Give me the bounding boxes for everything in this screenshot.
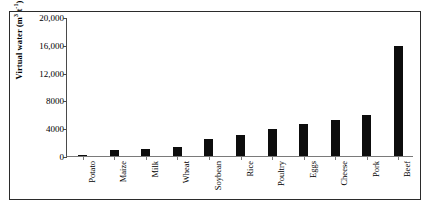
x-axis-label-pork: Pork	[370, 159, 382, 205]
x-axis-label-cheese: Cheese	[338, 159, 350, 205]
bar-pork	[362, 115, 371, 156]
y-axis-tick-label: 12,000	[22, 69, 64, 78]
bar-beef	[394, 46, 403, 156]
y-axis-tick-mark	[63, 157, 67, 158]
y-axis-tick-labels: 04000800012,00016,00020,000	[22, 14, 64, 162]
x-axis-category-labels: PotatoMaizeMilkWheatSoybeanRicePoultryEg…	[66, 159, 413, 207]
bar-cheese	[331, 120, 340, 156]
y-axis-tick-label: 0	[22, 153, 64, 162]
virtual-water-bar-chart-figure: Virtual water (m3 t-1) 04000800012,00016…	[0, 0, 432, 210]
y-axis-tick-mark	[63, 74, 67, 75]
y-axis-tick-label: 8000	[22, 97, 64, 106]
x-axis-label-poultry: Poultry	[275, 159, 287, 205]
x-axis-label-potato: Potato	[86, 159, 98, 205]
y-axis-title-exponent-volume: 3	[13, 14, 19, 17]
x-axis-label-milk: Milk	[149, 159, 161, 205]
x-axis-label-rice: Rice	[244, 159, 256, 205]
x-axis-label-wheat: Wheat	[180, 159, 192, 205]
y-axis-tick-mark	[63, 46, 67, 47]
y-axis-tick-label: 16,000	[22, 41, 64, 50]
bar-eggs	[299, 124, 308, 156]
x-axis-label-beef: Beef	[401, 159, 413, 205]
y-axis-title-end: )	[14, 1, 24, 4]
y-axis-tick-label: 4000	[22, 125, 64, 134]
y-axis-tick-mark	[63, 18, 67, 19]
y-axis-tick-mark	[63, 129, 67, 130]
bar-wheat	[173, 147, 182, 156]
y-axis-tick-label: 20,000	[22, 14, 64, 23]
bar-poultry	[268, 129, 277, 156]
bar-soybean	[204, 139, 213, 156]
bar-series	[67, 17, 413, 156]
bar-milk	[141, 149, 150, 156]
x-axis-label-maize: Maize	[117, 159, 129, 205]
bar-rice	[236, 135, 245, 156]
y-axis-tick-mark	[63, 101, 67, 102]
y-axis-title-exponent-tonne: -1	[13, 3, 19, 8]
plot-area	[66, 18, 413, 157]
x-axis-label-soybean: Soybean	[212, 159, 224, 205]
x-axis-label-eggs: Eggs	[307, 159, 319, 205]
